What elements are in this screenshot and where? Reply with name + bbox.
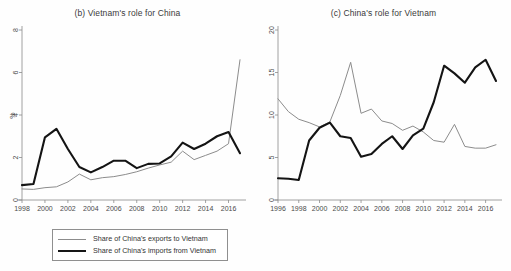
series-line — [278, 62, 496, 148]
x-tick-label: 2010 — [416, 205, 432, 212]
panel-c-title: (c) China's role for Vietnam — [256, 8, 511, 18]
panel-c-plot-area: 0510152019961998200020022004200620082010… — [256, 22, 511, 220]
y-tick-label: 20 — [268, 26, 275, 34]
x-tick-label: 2008 — [129, 205, 145, 212]
x-tick-label: 2012 — [436, 205, 452, 212]
x-tick-label: 1998 — [291, 205, 307, 212]
y-tick-label: 0 — [268, 198, 275, 202]
panel-b-plot-area: 0246819982000200220042006200820102012201… — [0, 22, 255, 220]
y-tick-label: 8 — [12, 28, 19, 32]
x-tick-label: 2008 — [395, 205, 411, 212]
y-tick-label: 2 — [12, 155, 19, 159]
x-tick-label: 2012 — [175, 205, 191, 212]
x-tick-label: 2016 — [478, 205, 494, 212]
x-tick-label: 2004 — [83, 205, 99, 212]
x-tick-label: 2014 — [198, 205, 214, 212]
series-line — [22, 60, 240, 190]
panel-b: (b) Vietnam's role for China % 024681998… — [0, 0, 255, 271]
legend-line-swatch-thick-icon — [58, 250, 86, 252]
x-tick-label: 2000 — [37, 205, 53, 212]
x-tick-label: 2006 — [374, 205, 390, 212]
legend-label: Share of China's imports from Vietnam — [93, 245, 216, 257]
y-tick-label: 10 — [268, 111, 275, 119]
panel-c-svg: 0510152019961998200020022004200620082010… — [256, 22, 511, 220]
x-tick-label: 2002 — [60, 205, 76, 212]
x-tick-label: 2000 — [312, 205, 328, 212]
x-tick-label: 2014 — [457, 205, 473, 212]
x-tick-label: 1996 — [270, 205, 286, 212]
y-tick-label: 5 — [268, 155, 275, 159]
y-tick-label: 6 — [12, 70, 19, 74]
x-tick-label: 2006 — [106, 205, 122, 212]
panel-b-svg: 0246819982000200220042006200820102012201… — [0, 22, 255, 220]
y-tick-label: 0 — [12, 198, 19, 202]
x-tick-label: 1998 — [14, 205, 30, 212]
series-line — [22, 129, 240, 185]
x-tick-label: 2004 — [353, 205, 369, 212]
legend-line-swatch-thin-icon — [58, 239, 86, 240]
panel-b-legend: Share of China's exports to Vietnam Shar… — [52, 229, 228, 261]
x-tick-label: 2016 — [221, 205, 237, 212]
panel-c: (c) China's role for Vietnam % 051015201… — [256, 0, 511, 271]
y-tick-label: 15 — [268, 69, 275, 77]
figure-container: (b) Vietnam's role for China % 024681998… — [0, 0, 511, 271]
legend-item: Share of China's imports from Vietnam — [58, 245, 222, 257]
y-tick-label: 4 — [12, 113, 19, 117]
series-line — [278, 60, 496, 180]
legend-item: Share of China's exports to Vietnam — [58, 233, 222, 245]
legend-label: Share of China's exports to Vietnam — [93, 233, 208, 245]
x-tick-label: 2010 — [152, 205, 168, 212]
panel-b-title: (b) Vietnam's role for China — [0, 8, 255, 18]
x-tick-label: 2002 — [332, 205, 348, 212]
